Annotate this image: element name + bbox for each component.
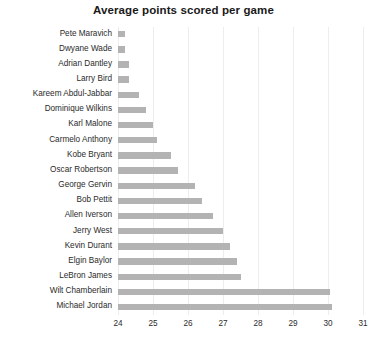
y-axis-tick-label: Michael Jordan [0, 301, 112, 310]
bar [118, 304, 332, 310]
bar [118, 92, 139, 98]
bar-row [118, 133, 363, 147]
bar-row [118, 148, 363, 162]
x-axis-tick-label: 26 [174, 319, 202, 328]
bar-row [118, 194, 363, 208]
y-axis-tick-label: Kevin Durant [0, 241, 112, 250]
bar-row [118, 42, 363, 56]
bar [118, 183, 195, 189]
bar-row [118, 88, 363, 102]
x-axis-tick-label: 30 [314, 319, 342, 328]
bar-row [118, 209, 363, 223]
bar [118, 198, 202, 204]
bar-row [118, 270, 363, 284]
x-axis-tick-label: 29 [279, 319, 307, 328]
y-axis-tick-label: George Gervin [0, 180, 112, 189]
x-axis-tick-label: 25 [139, 319, 167, 328]
x-axis-tick-label: 28 [244, 319, 272, 328]
y-axis-tick-label: Oscar Robertson [0, 165, 112, 174]
y-axis-tick-label: Kobe Bryant [0, 150, 112, 159]
bar [118, 228, 223, 234]
y-axis-tick-label: Adrian Dantley [0, 59, 112, 68]
bar [118, 243, 230, 249]
bar [118, 122, 153, 128]
y-axis-tick-label: Carmelo Anthony [0, 135, 112, 144]
bar-row [118, 72, 363, 86]
bar-row [118, 118, 363, 132]
gridline [363, 27, 364, 315]
bar-row [118, 300, 363, 314]
bar-row [118, 163, 363, 177]
bar [118, 46, 125, 52]
bar [118, 152, 171, 158]
bar [118, 274, 241, 280]
x-axis-tick-label: 24 [104, 319, 132, 328]
bar [118, 107, 146, 113]
bar-row [118, 239, 363, 253]
y-axis-tick-label: Jerry West [0, 226, 112, 235]
y-axis-tick-label: LeBron James [0, 271, 112, 280]
bar-row [118, 103, 363, 117]
bar [118, 31, 125, 37]
y-axis-tick-label: Wilt Chamberlain [0, 286, 112, 295]
bar [118, 289, 330, 295]
y-axis-tick-label: Pete Maravich [0, 29, 112, 38]
y-axis-tick-label: Karl Malone [0, 119, 112, 128]
y-axis-tick-label: Larry Bird [0, 74, 112, 83]
y-axis-tick-label: Dwyane Wade [0, 44, 112, 53]
y-axis-tick-label: Allen Iverson [0, 210, 112, 219]
bar [118, 137, 157, 143]
x-axis-tick-label: 27 [209, 319, 237, 328]
bar [118, 61, 129, 67]
bar-row [118, 254, 363, 268]
bar-row [118, 179, 363, 193]
bar [118, 258, 237, 264]
y-axis-tick-label: Kareem Abdul-Jabbar [0, 89, 112, 98]
plot-area [118, 27, 363, 315]
bar-row [118, 285, 363, 299]
chart-title: Average points scored per game [0, 4, 367, 16]
bar [118, 76, 129, 82]
bar-row [118, 57, 363, 71]
x-axis-tick-label: 31 [349, 319, 372, 328]
bar [118, 213, 213, 219]
bar [118, 167, 178, 173]
bar-row [118, 27, 363, 41]
y-axis-tick-label: Bob Pettit [0, 195, 112, 204]
y-axis-tick-label: Elgin Baylor [0, 256, 112, 265]
bar-row [118, 224, 363, 238]
y-axis-tick-label: Dominique Wilkins [0, 104, 112, 113]
